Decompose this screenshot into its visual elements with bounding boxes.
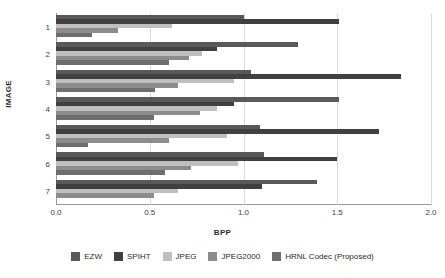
bar[interactable] [56,60,169,64]
bar-row [56,60,431,64]
x-tick-label: 1.0 [238,208,249,217]
legend-swatch-icon [208,252,217,261]
bar-group [56,152,431,174]
y-tick-label: 5 [38,132,50,141]
bar-row [56,115,431,119]
bar-group [56,125,431,147]
y-axis-label: IMAGE [4,80,13,108]
legend-label: JPEG2000 [221,252,260,261]
gridline [431,13,432,205]
chart-legend: EZWSPIHTJPEGJPEG2000HRNL Codec (Proposed… [0,252,445,261]
y-tick-label: 2 [38,50,50,59]
x-axis-label: BPP [0,228,445,237]
legend-item[interactable]: JPEG [163,252,197,261]
bar[interactable] [56,115,154,119]
x-tick-label: 2.0 [425,208,436,217]
legend-swatch-icon [272,252,281,261]
bar[interactable] [56,33,92,37]
x-tick-label: 0.0 [50,208,61,217]
legend-swatch-icon [163,252,172,261]
x-tick-label: 1.5 [332,208,343,217]
legend-item[interactable]: SPIHT [114,252,151,261]
legend-item[interactable]: EZW [71,252,102,261]
legend-label: EZW [84,252,102,261]
legend-label: SPIHT [127,252,151,261]
x-tick-label: 0.5 [144,208,155,217]
y-tick-label: 1 [38,22,50,31]
bar-row [56,198,431,202]
bar-group [56,70,431,92]
legend-item[interactable]: JPEG2000 [208,252,260,261]
bar-row [56,33,431,37]
y-tick-label: 4 [38,105,50,114]
y-tick-label: 6 [38,159,50,168]
plot-area [56,13,431,205]
bar-row [56,88,431,92]
bar-row [56,143,431,147]
legend-item[interactable]: HRNL Codec (Proposed) [272,252,374,261]
y-tick-label: 3 [38,77,50,86]
bar-row [56,170,431,174]
legend-label: JPEG [176,252,197,261]
bar-group [56,15,431,37]
bar[interactable] [56,143,88,147]
y-tick-label: 7 [38,187,50,196]
bar-group [56,42,431,64]
bar-group [56,180,431,202]
bar[interactable] [56,88,155,92]
bar[interactable] [56,170,165,174]
legend-label: HRNL Codec (Proposed) [285,252,374,261]
legend-swatch-icon [71,252,80,261]
bar-group [56,97,431,119]
chart-page: IMAGE BPP 1234567 0.00.51.01.52.0 EZWSPI… [0,0,445,278]
legend-swatch-icon [114,252,123,261]
